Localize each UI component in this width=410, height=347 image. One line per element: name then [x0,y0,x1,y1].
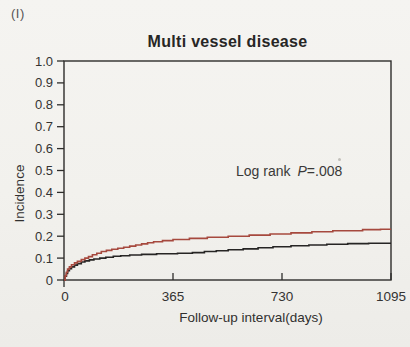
y-tick-label: 0.3 [35,207,53,222]
y-tick-label: 0.4 [35,185,53,200]
y-tick-label: 0.7 [35,119,53,134]
x-tick-label: 1095 [376,289,406,304]
figure-container: (I) Multi vessel disease Incidence 00.10… [0,0,410,347]
x-tick-label: 365 [162,289,185,304]
y-tick-label: 0.5 [35,163,53,178]
p-symbol: P [297,163,306,179]
p-value: =.008 [307,163,342,179]
x-tick-label: 0 [61,289,69,304]
scan-artifact-dot [338,158,341,161]
log-rank-annotation: Log rankP=.008 [236,163,342,179]
x-tick-label: 730 [271,289,294,304]
y-tick-label: 0.6 [35,141,53,156]
y-tick-label: 0.9 [35,75,53,90]
y-tick-label: 0.2 [35,229,53,244]
incidence-plot: 00.10.20.30.40.50.60.70.80.91.0036573010… [0,0,410,347]
y-tick-label: 1.0 [35,54,53,69]
y-tick-label: 0 [46,273,53,288]
x-axis-title: Follow-up interval(days) [101,310,401,325]
y-tick-label: 0.1 [35,251,53,266]
red-curve [64,229,391,280]
y-tick-label: 0.8 [35,97,53,112]
log-rank-label: Log rank [236,163,290,179]
